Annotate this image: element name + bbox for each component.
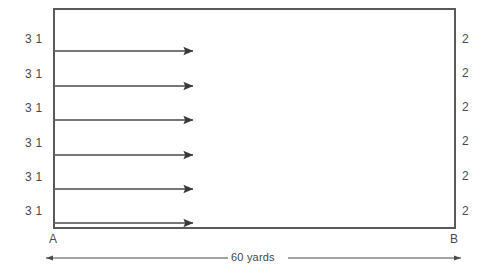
corner-label-b: B [450,233,458,245]
field-rectangle [54,9,455,228]
dimension-label: 60 yards [228,252,278,263]
left-label: 3 1 [25,102,42,114]
figure-svg [0,0,495,277]
right-label: 2 [462,135,469,147]
right-label: 2 [462,67,469,79]
left-label: 3 1 [25,205,42,217]
diagram-canvas: 3 1 3 1 3 1 3 1 3 1 3 1 2 2 2 2 2 2 A B … [0,0,495,277]
left-label: 3 1 [25,171,42,183]
right-label: 2 [462,101,469,113]
left-label: 3 1 [25,33,42,45]
corner-label-a: A [49,233,57,245]
left-label: 3 1 [25,68,42,80]
right-label: 2 [462,170,469,182]
right-label: 2 [462,205,469,217]
left-label: 3 1 [25,137,42,149]
right-label: 2 [462,33,469,45]
